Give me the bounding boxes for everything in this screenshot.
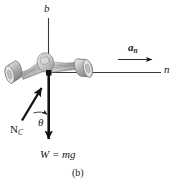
right-wheel — [73, 56, 95, 80]
physics-free-body-diagram: b n an NC θ W = mg (b) — [0, 0, 177, 187]
figure-caption: (b) — [72, 168, 84, 178]
normal-force-subscript: C — [18, 129, 23, 137]
n-axis-label: n — [164, 64, 170, 75]
acceleration-subscript: n — [134, 47, 138, 55]
normal-force-symbol: N — [10, 123, 18, 135]
left-wheel — [3, 60, 25, 84]
theta-angle-arc — [34, 112, 48, 114]
weight-equation: W = mg — [40, 148, 76, 160]
normal-force-label: NC — [10, 124, 23, 137]
diagram-canvas — [0, 0, 177, 187]
weight-label: W = mg — [40, 149, 76, 160]
acceleration-vector-label: an — [128, 42, 138, 55]
theta-angle-label: θ — [38, 117, 43, 128]
b-axis-label: b — [44, 3, 50, 14]
